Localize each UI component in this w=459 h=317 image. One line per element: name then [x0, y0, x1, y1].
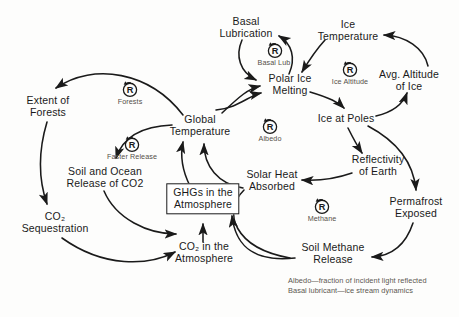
loop-marker-ice-altitude: R Ice Altitude — [315, 59, 385, 87]
node-label-line2: Exposed — [395, 207, 437, 219]
node-label-line2: Melting — [273, 84, 308, 96]
loop-marker-faster-release: R Faster Release — [97, 134, 167, 162]
node-label-line2: Temperature — [318, 30, 379, 42]
node-label-line1: Avg. Altitude — [379, 68, 439, 80]
node-label-line1: Soil and Ocean — [68, 165, 142, 177]
edge-ghgs-to-global-temperature — [182, 142, 190, 186]
node-avg-altitude-of-ice: Avg. Altitude of Ice — [379, 68, 439, 92]
edge-avg-altitude-to-ice-temperature — [384, 35, 428, 66]
node-label-line1: CO₂ in the — [179, 240, 229, 252]
node-label-line1: Reflectivity — [352, 153, 405, 165]
node-label-line2: of Ice — [396, 80, 423, 92]
node-label-line2: of Earth — [359, 165, 397, 177]
edge-reflectivity-to-solar-heat-absorbed — [302, 173, 352, 180]
node-polar-ice-melting: Polar Ice Melting — [269, 72, 312, 96]
node-label-line1: Extent of — [27, 94, 70, 106]
loop-marker-label: Methane — [287, 215, 357, 224]
causal-loop-diagram: Extent of Forests CO₂ Sequestration Soil… — [0, 0, 459, 317]
node-label-line2: Forests — [30, 106, 66, 118]
node-label-line1: Solar Heat — [246, 168, 297, 180]
node-soil-and-ocean-release-of-co2: Soil and Ocean Release of CO2 — [67, 165, 144, 189]
node-global-temperature: Global Temperature — [170, 113, 231, 137]
svg-text:R: R — [347, 65, 354, 75]
edge-co2-sequestration-to-co2-in-atmosphere — [62, 238, 175, 262]
svg-text:R: R — [319, 202, 326, 212]
node-reflectivity-of-earth: Reflectivity of Earth — [352, 153, 405, 177]
loop-marker-label: Faster Release — [97, 153, 167, 162]
node-label-line1: CO₂ — [45, 210, 65, 222]
loop-marker-label: Ice Altitude — [315, 78, 385, 87]
edge-secondary-to-polar-ice-melting — [216, 93, 261, 110]
node-basal-lubrication: Basal Lubrication — [219, 15, 272, 39]
footnote-basal-lubricant: Basal lubricant—ice stream dynamics — [288, 286, 427, 296]
node-ice-at-poles: Ice at Poles — [318, 112, 375, 124]
node-label-line1: Global — [184, 113, 215, 125]
edge-outer-left-sweep — [234, 190, 290, 258]
loop-marker-forests: R Forests — [95, 79, 165, 107]
node-solar-heat-absorbed: Solar Heat Absorbed — [246, 168, 297, 192]
edge-polar-ice-melting-to-ice-at-poles — [310, 92, 344, 108]
node-label-line1: Soil Methane — [301, 241, 364, 253]
edge-solar-heat-absorbed-to-global-temperature — [204, 144, 243, 188]
footnotes: Albedo—fraction of incident light reflec… — [288, 276, 427, 296]
node-label-line2: Lubrication — [219, 27, 272, 39]
reinforcing-loop-icon: R — [265, 40, 285, 60]
reinforcing-loop-icon: R — [260, 116, 280, 136]
loop-marker-label: Forests — [95, 98, 165, 107]
node-label-line2: Sequestration — [22, 222, 89, 234]
svg-text:R: R — [272, 46, 279, 56]
edge-soil-methane-release-to-ghgs — [232, 216, 295, 259]
node-label-line2: Atmosphere — [174, 199, 232, 211]
node-label-line1: Permafrost — [390, 195, 443, 207]
loop-marker-label: Albedo — [235, 135, 305, 144]
node-label-line2: Release of CO2 — [67, 177, 144, 189]
node-label-line2: Release — [313, 253, 353, 265]
edge-extent-of-forests-to-co2-sequestration — [40, 122, 47, 204]
node-ice-temperature: Ice Temperature — [318, 18, 379, 42]
edge-soil-ocean-release-to-ghgs — [104, 191, 176, 234]
node-label-line1: Polar Ice — [269, 72, 312, 84]
reinforcing-loop-icon: R — [122, 134, 142, 154]
reinforcing-loop-icon: R — [120, 79, 140, 99]
edge-global-temperature-to-polar-ice-melting — [222, 86, 260, 113]
node-label-line1: Ice — [341, 18, 355, 30]
svg-text:R: R — [127, 85, 134, 95]
node-ghgs-in-the-atmosphere: GHGs in the Atmosphere — [166, 183, 239, 214]
node-permafrost-exposed: Permafrost Exposed — [390, 195, 443, 219]
node-label-line1: Basal — [232, 15, 259, 27]
loop-marker-basal-lub: R Basal Lub. — [240, 40, 310, 68]
loop-marker-albedo: R Albedo — [235, 116, 305, 144]
node-soil-methane-release: Soil Methane Release — [301, 241, 364, 265]
svg-text:R: R — [129, 140, 136, 150]
node-label-line2: Absorbed — [249, 180, 295, 192]
edge-ice-at-poles-to-reflectivity — [348, 128, 362, 153]
node-co2-sequestration: CO₂ Sequestration — [22, 210, 89, 234]
node-label-line1: Ice at Poles — [318, 112, 375, 124]
node-label-line1: GHGs in the — [173, 186, 232, 198]
reinforcing-loop-icon: R — [340, 59, 360, 79]
edge-ice-at-poles-to-avg-altitude — [376, 93, 407, 116]
edge-permafrost-exposed-to-soil-methane-release — [372, 223, 413, 257]
loop-marker-methane: R Methane — [287, 196, 357, 224]
svg-text:R: R — [267, 122, 274, 132]
node-label-line2: Temperature — [170, 125, 231, 137]
node-co2-in-the-atmosphere: CO₂ in the Atmosphere — [175, 240, 233, 264]
reinforcing-loop-icon: R — [312, 196, 332, 216]
node-label-line2: Atmosphere — [175, 252, 233, 264]
node-extent-of-forests: Extent of Forests — [27, 94, 70, 118]
loop-marker-label: Basal Lub. — [240, 59, 310, 68]
footnote-albedo: Albedo—fraction of incident light reflec… — [288, 276, 427, 286]
